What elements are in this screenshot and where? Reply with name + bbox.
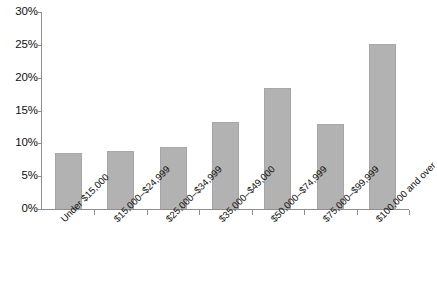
y-tick-label: 25%	[0, 39, 38, 51]
y-tick-mark	[36, 78, 41, 79]
x-tick-mark	[409, 210, 410, 215]
x-tick-mark	[357, 210, 358, 215]
x-tick-mark	[94, 210, 95, 215]
y-tick-mark	[36, 143, 41, 144]
y-tick-mark	[36, 111, 41, 112]
bar	[369, 44, 396, 209]
y-axis-tick-labels: 0%5%10%15%20%25%30%	[0, 0, 38, 230]
y-tick-mark	[36, 45, 41, 46]
y-tick-label: 20%	[0, 72, 38, 84]
y-tick-label: 15%	[0, 105, 38, 117]
y-tick-label: 30%	[0, 6, 38, 18]
y-tick-label: 5%	[0, 170, 38, 182]
x-axis-tick-labels: Under $15,000$15,000–$24,999$25,000–$34,…	[0, 209, 413, 302]
x-tick-mark	[252, 210, 253, 215]
y-tick-label: 10%	[0, 138, 38, 150]
x-tick-mark	[304, 210, 305, 215]
y-tick-mark	[36, 209, 41, 210]
y-tick-mark	[36, 176, 41, 177]
bar	[264, 88, 291, 209]
x-tick-mark	[147, 210, 148, 215]
x-tick-mark	[199, 210, 200, 215]
y-tick-mark	[36, 12, 41, 13]
